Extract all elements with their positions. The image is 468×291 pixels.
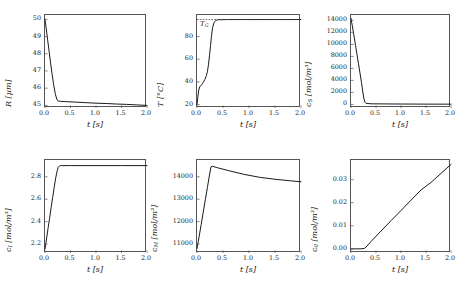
panel-c0-xtick-label: 0.0	[339, 254, 361, 262]
multi-panel-figure: 0.00.51.01.52.0454647484950t [s]R [µm]0.…	[0, 0, 468, 291]
panel-c0-plot-area	[351, 160, 451, 253]
panel-c0-series-0	[351, 164, 451, 248]
panel-c0-xtick-label: 2.0	[439, 254, 461, 262]
yaxis-unit: [mol/m³]	[310, 207, 319, 242]
panel-c0-yaxis-label: c0 [mol/m³]	[310, 207, 319, 252]
panel-c0-xtick-label: 0.5	[364, 254, 386, 262]
panel-c0-xaxis-label: t [s]	[350, 265, 450, 274]
panel-c0-axes-frame	[350, 159, 450, 252]
panel-c0: 0.00.51.01.52.00.000.010.020.03t [s]c0 […	[0, 0, 468, 291]
yaxis-symbol: c	[310, 248, 319, 252]
panel-c0-ytick-label: 0.02	[314, 198, 347, 206]
panel-c0-xtick-label: 1.5	[414, 254, 436, 262]
panel-c0-ytick-label: 0.03	[314, 175, 347, 183]
yaxis-subscript: 0	[313, 244, 319, 247]
panel-c0-xtick-label: 1.0	[389, 254, 411, 262]
